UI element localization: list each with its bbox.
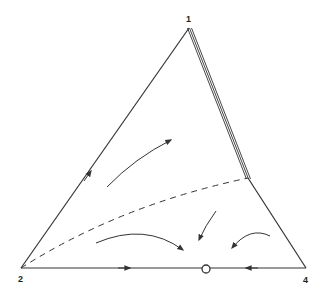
- flow-arrow-lower-left: [96, 234, 183, 250]
- vertex-label-1: 1: [186, 14, 191, 24]
- edge-1-2: [21, 28, 189, 268]
- ternary-diagram: 1 2 4: [0, 0, 326, 300]
- vertex-label-4: 4: [303, 275, 308, 285]
- flow-arrow-lower-middle: [199, 211, 216, 240]
- flow-arrow-lower-right: [232, 233, 270, 248]
- edge-4-lower: [248, 178, 306, 268]
- separatrix-dashed-curve: [21, 178, 248, 268]
- fixed-point-open-circle: [202, 265, 210, 273]
- flow-arrow-upper: [107, 140, 171, 187]
- triple-edge-1-right: [188, 28, 251, 179]
- vertex-label-2: 2: [18, 274, 23, 284]
